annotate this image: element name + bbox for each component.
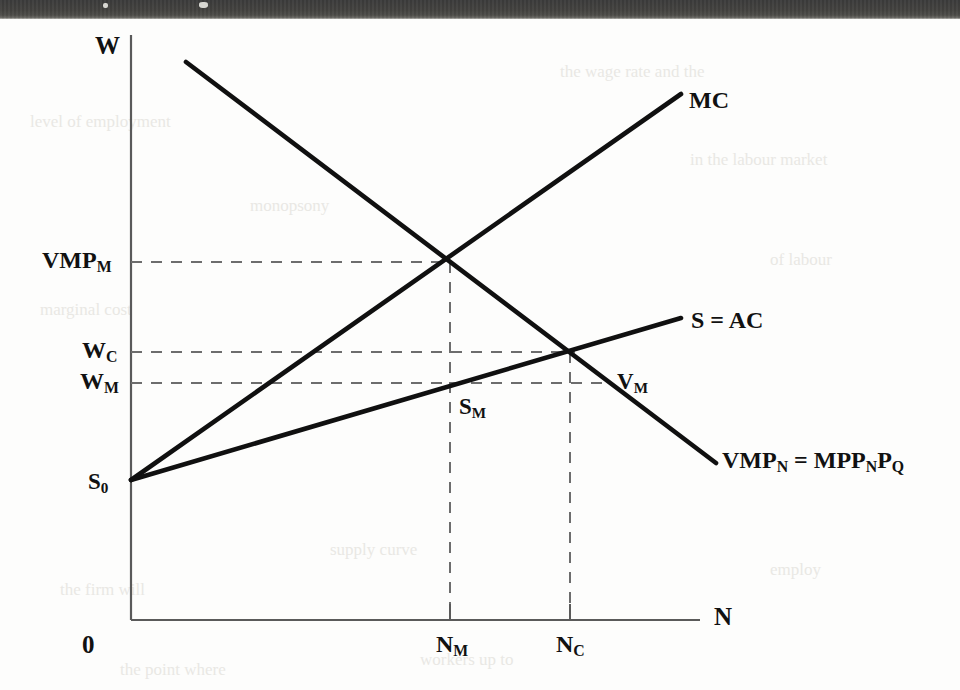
y-tick-sub-vmp-m: M bbox=[97, 258, 112, 275]
y-tick-sub-w-m: M bbox=[104, 379, 119, 396]
point-label-v-m: VM bbox=[617, 370, 648, 393]
x-tick-sub-n-c: C bbox=[573, 642, 584, 659]
scan-speck bbox=[199, 2, 208, 8]
curve-label-s-ac: S = AC bbox=[691, 308, 763, 332]
scan-edge-artifact bbox=[0, 0, 960, 19]
point-label-s0: S0 bbox=[88, 470, 108, 493]
curve-label-vmp-n-sub2: N bbox=[866, 458, 877, 475]
y-axis-label: W bbox=[95, 33, 120, 58]
curve-label-vmp-n-eq: = MPP bbox=[788, 447, 866, 473]
x-tick-sub-n-m: M bbox=[453, 642, 468, 659]
x-tick-label-n-c: NC bbox=[556, 632, 585, 656]
origin-label: 0 bbox=[82, 632, 95, 657]
y-tick-label-w-c: WC bbox=[82, 338, 117, 362]
point-label-s-m: SM bbox=[459, 395, 486, 418]
y-tick-text-w-m: W bbox=[80, 368, 104, 394]
y-tick-sub-w-c: C bbox=[106, 348, 117, 365]
point-sub-v-m: M bbox=[634, 379, 648, 396]
curve-label-mc: MC bbox=[689, 88, 729, 112]
curve-mc bbox=[131, 94, 681, 480]
point-text-s0: S bbox=[88, 469, 101, 494]
y-tick-label-w-m: WM bbox=[80, 369, 119, 393]
y-tick-label-vmp-m: VMPM bbox=[42, 248, 112, 272]
economics-line-chart bbox=[0, 0, 960, 690]
curve-s-ac bbox=[131, 318, 681, 480]
y-tick-text-vmp-m: VMP bbox=[42, 247, 97, 273]
point-text-s-m: S bbox=[459, 394, 472, 419]
x-tick-label-n-m: NM bbox=[436, 632, 468, 656]
curve-label-vmp-n-sub1: N bbox=[777, 458, 788, 475]
curve-label-vmp-n-p: P bbox=[877, 447, 892, 473]
y-tick-text-w-c: W bbox=[82, 337, 106, 363]
curve-label-vmp-n: VMPN = MPPNPQ bbox=[722, 448, 904, 472]
x-axis-label: N bbox=[714, 604, 732, 629]
x-tick-text-n-c: N bbox=[556, 631, 573, 657]
dashed-guides bbox=[131, 262, 612, 620]
x-tick-text-n-m: N bbox=[436, 631, 453, 657]
curve-label-vmp-n-text: VMP bbox=[722, 447, 777, 473]
curve-label-vmp-n-sub3: Q bbox=[892, 458, 904, 475]
point-text-v-m: V bbox=[617, 369, 634, 394]
figure-page: the wage rate and the level of employmen… bbox=[0, 0, 960, 690]
point-sub-s-m: M bbox=[472, 404, 486, 421]
point-sub-s0: 0 bbox=[101, 479, 109, 496]
scan-speck bbox=[103, 3, 108, 8]
